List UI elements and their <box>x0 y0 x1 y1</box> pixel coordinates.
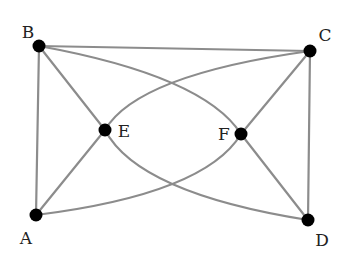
node-c <box>304 45 317 58</box>
edge-c-d <box>308 51 310 220</box>
edges-layer <box>36 46 310 220</box>
node-label-b: B <box>22 24 35 41</box>
edge-e-d <box>105 130 308 220</box>
node-label-a: A <box>20 230 32 247</box>
edge-c-f <box>241 51 310 134</box>
edge-a-e <box>36 130 105 215</box>
graph-diagram: A B C D E F <box>0 0 345 255</box>
edge-b-f <box>39 46 241 134</box>
edge-d-f <box>241 134 308 220</box>
graph-canvas <box>0 0 345 255</box>
node-label-d: D <box>315 232 329 249</box>
node-b <box>33 40 46 53</box>
node-label-e: E <box>118 123 130 140</box>
node-d <box>302 214 315 227</box>
edge-b-a <box>36 46 39 215</box>
node-f <box>235 128 248 141</box>
edge-b-c <box>39 46 310 51</box>
edge-a-f <box>36 134 241 215</box>
node-a <box>30 209 43 222</box>
node-label-c: C <box>318 27 331 44</box>
node-e <box>99 124 112 137</box>
node-label-f: F <box>218 126 230 143</box>
edge-e-c <box>105 51 310 130</box>
nodes-layer <box>30 40 317 227</box>
